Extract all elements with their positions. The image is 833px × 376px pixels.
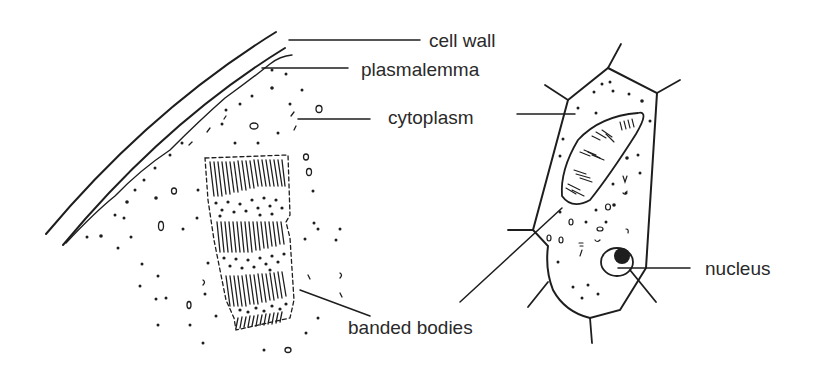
label-banded-bodies: banded bodies (348, 318, 473, 337)
plasmalemma-line (66, 55, 292, 243)
leader-lines-right (460, 114, 690, 302)
banded-body-left (205, 155, 294, 330)
label-plasmalemma: plasmalemma (361, 60, 479, 79)
cell-diagram: cell wall plasmalemma cytoplasm banded b… (0, 0, 833, 376)
cytoplasm-vesicles-right (547, 176, 628, 256)
leader-banded-left (300, 290, 370, 316)
label-cell-wall: cell wall (429, 31, 496, 50)
cytoplasm-granules-left (86, 69, 342, 352)
label-cytoplasm: cytoplasm (388, 108, 474, 127)
label-nucleus: nucleus (705, 259, 771, 278)
banded-body-right (562, 113, 644, 205)
nucleus-shape (601, 248, 633, 276)
